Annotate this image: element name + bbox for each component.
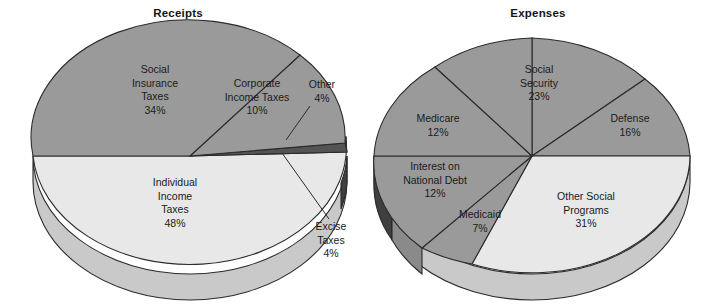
chart-receipts: Receipts Social Insu (0, 0, 360, 307)
expenses-pie-svg (358, 0, 718, 307)
chart-expenses: Expenses So (358, 0, 718, 307)
receipts-pie-svg (0, 0, 360, 307)
pie-chart-figure: Receipts Social Insu (0, 0, 718, 307)
